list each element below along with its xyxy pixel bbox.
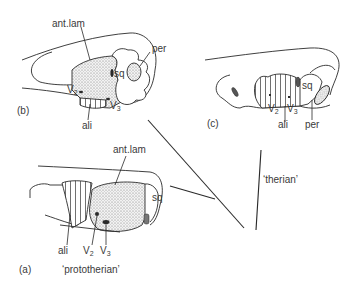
- caption-prototherian: ‘prototherian’: [62, 265, 120, 275]
- petrosal-b: [127, 63, 141, 81]
- skull-c: [205, 48, 339, 108]
- label-v2-c: V2: [268, 104, 279, 115]
- label-sq-b: sq: [114, 69, 125, 79]
- skull-b: [22, 33, 156, 108]
- petrosal-c: [312, 83, 333, 107]
- label-ali-c: ali: [278, 120, 288, 130]
- panel-label-c: (c): [207, 119, 219, 129]
- label-per-b: per: [152, 44, 166, 54]
- label-sq-c: sq: [302, 81, 313, 91]
- label-therian: ‘therian’: [263, 175, 298, 185]
- phylogeny-lines: [148, 120, 261, 230]
- alisphenoid-a: [62, 181, 92, 228]
- label-v2-b: V2: [67, 85, 78, 96]
- label-per-c: per: [305, 120, 319, 130]
- label-ant-lam-a: ant.lam: [113, 145, 146, 155]
- label-v2-a: V2: [83, 246, 94, 257]
- label-ant-lam-b: ant.lam: [52, 19, 85, 29]
- label-v3-c: V3: [287, 104, 298, 115]
- panel-label-a: (a): [19, 265, 31, 275]
- label-sq-a: sq: [152, 193, 163, 203]
- diagram-canvas: [0, 0, 355, 285]
- label-v3-a: V3: [100, 246, 111, 257]
- label-ali-a: ali: [58, 246, 68, 256]
- anterior-lamina-a: [89, 182, 145, 231]
- label-v3-b: V3: [110, 101, 121, 112]
- panel-label-b: (b): [17, 106, 29, 116]
- label-ali-b: ali: [82, 121, 92, 131]
